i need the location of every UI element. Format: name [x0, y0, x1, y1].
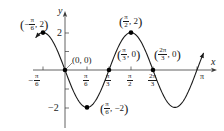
x-axis-label: x — [211, 57, 215, 67]
x-tick-label-pi6: π6 — [83, 73, 89, 88]
x-tick-label-pi3: π3 — [105, 73, 111, 88]
x-tick-label-pi: π — [200, 73, 204, 81]
x-tick-label-neg-pi6: − π6 — [28, 73, 40, 88]
point-label-pi3-0: (π3, 0) — [117, 47, 140, 62]
point-label-pi2-2: (π2, 2) — [119, 14, 142, 29]
x-tick-label-pi2: π2 — [127, 73, 133, 88]
y-tick-label-neg2: −2 — [48, 103, 59, 113]
point-pi6-neg2 — [85, 105, 90, 110]
point-label-origin: (0, 0) — [72, 56, 92, 65]
point-label-neg-pi6-2: (−π6, 2) — [20, 17, 48, 32]
point-pi2-2 — [129, 30, 134, 35]
y-tick-label-2: 2 — [57, 28, 62, 38]
point-label-pi6-neg2: (π6, −2) — [100, 101, 128, 116]
point-label-2pi3-0: (2π3, 0) — [154, 47, 181, 62]
x-tick-label-2pi3: 2π3 — [148, 73, 157, 88]
y-axis-label: y — [58, 6, 62, 16]
